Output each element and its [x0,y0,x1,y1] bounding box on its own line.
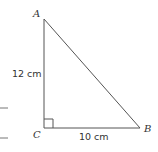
vertex-label-c: C [33,129,41,140]
side-length-cb: 10 cm [79,131,109,142]
vertex-label-b: B [143,123,151,134]
vertex-label-a: A [32,8,40,19]
right-angle-marker [44,119,53,128]
side-length-ac: 12 cm [12,68,42,79]
triangle-diagram: A C B 12 cm 10 cm [0,0,158,152]
side-ab-hypotenuse [44,19,140,128]
